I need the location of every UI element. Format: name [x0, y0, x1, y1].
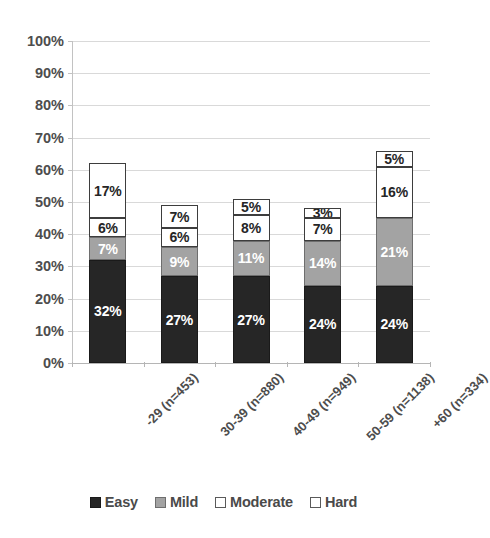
bar-segment-hard[interactable]: 5%	[233, 199, 270, 215]
bar-value-label: 14%	[309, 256, 336, 270]
y-axis-tick-label: 100%	[0, 33, 64, 49]
y-axis-tick-label: 90%	[0, 65, 64, 81]
bar-value-label: 8%	[241, 221, 261, 235]
y-axis-tick-label: 80%	[0, 97, 64, 113]
bar-value-label: 9%	[169, 255, 189, 269]
y-axis-tick-label: 70%	[0, 130, 64, 146]
bar-value-label: 5%	[241, 200, 261, 214]
bar-value-label: 24%	[309, 317, 336, 331]
bar-segment-mild[interactable]: 21%	[376, 218, 413, 286]
gridline	[72, 363, 430, 364]
legend-swatch-icon	[90, 497, 101, 508]
bar-value-label: 7%	[98, 242, 118, 256]
y-axis-tick-label: 20%	[0, 291, 64, 307]
y-axis-labels: 0%10%20%30%40%50%60%70%80%90%100%	[0, 41, 64, 363]
bar-value-label: 6%	[169, 230, 189, 244]
y-axis-tick	[68, 331, 73, 332]
y-axis-tick	[68, 41, 73, 42]
legend-label: Moderate	[230, 494, 293, 510]
bar-value-label: 6%	[98, 221, 118, 235]
bar-segment-easy[interactable]: 32%	[89, 260, 126, 363]
legend-item-hard[interactable]: Hard	[310, 494, 357, 510]
bar-segment-moderate[interactable]: 16%	[376, 167, 413, 219]
x-axis-category-label: -29 (n=453)	[142, 370, 201, 429]
bar-segment-hard[interactable]: 3%	[304, 208, 341, 218]
plot-area: 32%7%6%17%27%9%6%7%27%11%8%5%24%14%7%3%2…	[72, 41, 430, 363]
bar-segment-hard[interactable]: 17%	[89, 163, 126, 218]
bar-segment-hard[interactable]: 5%	[376, 151, 413, 167]
y-axis-tick-label: 0%	[0, 355, 64, 371]
bar-segment-easy[interactable]: 27%	[161, 276, 198, 363]
y-axis-tick	[68, 234, 73, 235]
x-axis-tick	[144, 362, 145, 367]
bar-value-label: 3%	[313, 208, 333, 218]
bar-stack[interactable]: 24%21%16%5%	[376, 41, 413, 363]
bar-segment-moderate[interactable]: 7%	[304, 218, 341, 241]
x-axis-tick	[215, 362, 216, 367]
x-axis-category-label: 50-59 (n=1138)	[363, 370, 437, 444]
bar-value-label: 17%	[94, 184, 121, 198]
bar-segment-easy[interactable]: 24%	[304, 286, 341, 363]
legend-swatch-icon	[310, 497, 321, 508]
y-axis-tick-label: 30%	[0, 258, 64, 274]
bar-value-label: 16%	[380, 185, 407, 199]
legend-item-moderate[interactable]: Moderate	[215, 494, 293, 510]
bar-segment-mild[interactable]: 14%	[304, 241, 341, 286]
bar-value-label: 7%	[169, 210, 189, 224]
bar-segment-mild[interactable]: 11%	[233, 241, 270, 276]
bar-segment-moderate[interactable]: 6%	[161, 228, 198, 247]
legend-swatch-icon	[155, 497, 166, 508]
legend-label: Easy	[105, 494, 138, 510]
x-axis-category-label: +60 (n=334)	[429, 370, 490, 431]
bar-stack[interactable]: 32%7%6%17%	[89, 41, 126, 363]
bar-value-label: 24%	[380, 317, 407, 331]
x-axis-tick	[72, 362, 73, 367]
y-axis-tick	[68, 266, 73, 267]
legend-swatch-icon	[215, 497, 226, 508]
bar-stack[interactable]: 24%14%7%3%	[304, 41, 341, 363]
legend-label: Hard	[325, 494, 357, 510]
y-axis-tick-label: 50%	[0, 194, 64, 210]
bar-segment-hard[interactable]: 7%	[161, 205, 198, 228]
bar-segment-moderate[interactable]: 6%	[89, 218, 126, 237]
bar-value-label: 21%	[380, 245, 407, 259]
bar-value-label: 32%	[94, 304, 121, 318]
bar-value-label: 5%	[384, 152, 404, 166]
bar-segment-easy[interactable]: 24%	[376, 286, 413, 363]
x-axis-category-label: 40-49 (n=949)	[289, 370, 358, 439]
bar-value-label: 11%	[238, 251, 265, 265]
y-axis-tick	[68, 73, 73, 74]
bar-stack[interactable]: 27%9%6%7%	[161, 41, 198, 363]
legend-item-mild[interactable]: Mild	[155, 494, 198, 510]
y-axis-tick	[68, 202, 73, 203]
chart-legend: EasyMildModerateHard	[0, 494, 447, 510]
y-axis-tick-label: 10%	[0, 323, 64, 339]
y-axis-tick-label: 60%	[0, 162, 64, 178]
x-axis-category-label: 30-39 (n=880)	[218, 370, 287, 439]
bar-value-label: 7%	[313, 222, 333, 236]
x-axis-tick	[358, 362, 359, 367]
x-axis-tick	[287, 362, 288, 367]
legend-label: Mild	[170, 494, 198, 510]
bar-stack[interactable]: 27%11%8%5%	[233, 41, 270, 363]
bar-segment-mild[interactable]: 9%	[161, 247, 198, 276]
x-axis-tick	[430, 362, 431, 367]
y-axis-tick	[68, 105, 73, 106]
bar-value-label: 27%	[237, 313, 264, 327]
y-axis-tick	[68, 170, 73, 171]
legend-item-easy[interactable]: Easy	[90, 494, 138, 510]
y-axis-tick-label: 40%	[0, 226, 64, 242]
bar-segment-moderate[interactable]: 8%	[233, 215, 270, 241]
y-axis-tick	[68, 299, 73, 300]
bar-value-label: 27%	[166, 313, 193, 327]
bar-segment-mild[interactable]: 7%	[89, 237, 126, 260]
y-axis-tick	[68, 138, 73, 139]
bar-segment-easy[interactable]: 27%	[233, 276, 270, 363]
